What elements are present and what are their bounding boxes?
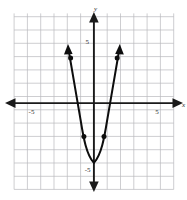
y-axis-tick-label-positive-five: 5 [86,38,90,46]
x-axis-tick-label-negative-five: -5 [29,108,35,116]
curve-point-marker [68,56,73,61]
graph-figure: -5 5 5 -5 y x [0,0,187,200]
y-axis-tick-label-negative-five: -5 [85,166,91,174]
curve-point-marker [102,134,107,139]
x-axis-tick-label-positive-five: 5 [155,108,159,116]
curve-point-marker [81,134,86,139]
curve-point-marker [115,56,120,61]
coordinate-plane-svg: -5 5 5 -5 y x [0,0,187,200]
